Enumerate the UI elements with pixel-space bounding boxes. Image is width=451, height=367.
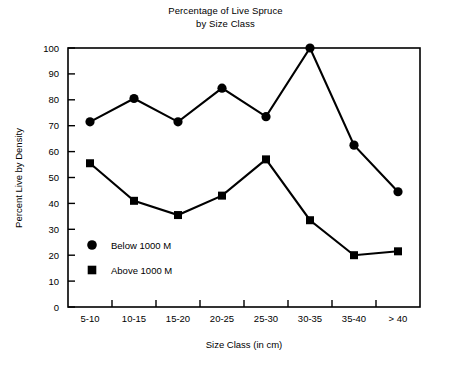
data-point-circle: [349, 141, 358, 150]
y-tick-label: 20: [48, 250, 59, 261]
y-tick-label: 40: [48, 198, 59, 209]
x-tick-label: 30-35: [298, 313, 322, 324]
x-tick-label: 10-15: [122, 313, 146, 324]
x-tick-label: > 40: [389, 313, 408, 324]
data-point-square: [86, 159, 94, 167]
data-point-square: [262, 155, 270, 163]
x-tick-label: 5-10: [80, 313, 99, 324]
y-tick-label: 70: [48, 120, 59, 131]
y-tick-label: 30: [48, 224, 59, 235]
x-axis-ticks: [112, 300, 376, 307]
data-point-square: [306, 216, 314, 224]
legend-marker-circle: [87, 240, 97, 250]
series-line: [90, 48, 398, 192]
x-tick-label: 20-25: [210, 313, 234, 324]
series-1: [85, 43, 402, 196]
y-tick-label: 0: [54, 302, 59, 313]
x-tick-label: 35-40: [342, 313, 366, 324]
data-point-circle: [173, 117, 182, 126]
data-point-square: [174, 211, 182, 219]
data-point-square: [218, 192, 226, 200]
data-point-circle: [217, 84, 226, 93]
x-tick-label: 15-20: [166, 313, 190, 324]
y-tick-label: 50: [48, 172, 59, 183]
data-point-square: [130, 197, 138, 205]
y-tick-label: 80: [48, 94, 59, 105]
legend-entry: Above 1000 M: [88, 265, 173, 276]
chart-legend: Below 1000 MAbove 1000 M: [87, 240, 172, 276]
legend-entry: Below 1000 M: [87, 240, 171, 251]
data-point-square: [350, 251, 358, 259]
data-point-circle: [129, 94, 138, 103]
x-axis-title: Size Class (in cm): [206, 339, 283, 350]
y-tick-label: 10: [48, 276, 59, 287]
chart-canvas: 0102030405060708090100 5-1010-1515-2020-…: [0, 0, 451, 367]
x-tick-label: 25-30: [254, 313, 278, 324]
y-tick-label: 60: [48, 146, 59, 157]
data-point-circle: [393, 187, 402, 196]
data-point-square: [394, 247, 402, 255]
y-tick-label: 90: [48, 68, 59, 79]
y-axis-tick-labels: 0102030405060708090100: [43, 43, 59, 313]
legend-label: Below 1000 M: [111, 240, 171, 251]
data-point-circle: [261, 112, 270, 121]
series-layer: [85, 43, 402, 259]
data-point-circle: [305, 43, 314, 52]
data-point-circle: [85, 117, 94, 126]
legend-label: Above 1000 M: [111, 265, 172, 276]
chart-figure: Percentage of Live Spruce by Size Class …: [0, 0, 451, 367]
legend-marker-square: [88, 266, 97, 275]
x-axis-tick-labels: 5-1010-1515-2020-2525-3030-3535-40> 40: [80, 313, 407, 324]
y-tick-label: 100: [43, 43, 59, 54]
y-axis-ticks: [68, 48, 75, 307]
y-axis-title: Percent Live by Density: [13, 128, 24, 228]
